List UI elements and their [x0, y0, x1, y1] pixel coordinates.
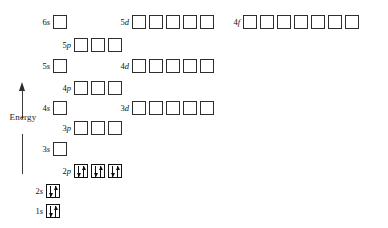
- energy-axis-line-lower: [22, 134, 23, 174]
- orbital-box-empty[interactable]: [74, 121, 88, 135]
- orbital-subshell-letter: s: [47, 103, 50, 113]
- orbital-row-4p: 4p: [52, 80, 122, 96]
- orbital-box-empty[interactable]: [200, 59, 214, 73]
- orbital-row-3s: 3s: [31, 141, 67, 157]
- orbital-subshell-letter: d: [125, 103, 129, 113]
- orbital-box-empty[interactable]: [166, 15, 180, 29]
- orbital-box-empty[interactable]: [132, 59, 146, 73]
- orbital-label-5d: 5d: [110, 18, 129, 27]
- orbital-box-group-4d: [132, 59, 214, 73]
- spin-down-arrow-icon: [49, 186, 53, 197]
- orbital-box-empty[interactable]: [243, 15, 257, 29]
- orbital-box-empty[interactable]: [166, 101, 180, 115]
- orbital-box-group-4p: [74, 81, 122, 95]
- orbital-box-empty[interactable]: [108, 38, 122, 52]
- orbital-box-filled[interactable]: [74, 164, 88, 178]
- orbital-box-empty[interactable]: [311, 15, 325, 29]
- orbital-label-4p: 4p: [52, 84, 71, 93]
- orbital-box-group-3s: [53, 142, 67, 156]
- spin-down-arrow-icon: [94, 166, 98, 177]
- orbital-box-empty[interactable]: [74, 81, 88, 95]
- orbital-box-empty[interactable]: [53, 59, 67, 73]
- orbital-box-empty[interactable]: [345, 15, 359, 29]
- orbital-subshell-letter: s: [47, 144, 50, 154]
- orbital-box-filled[interactable]: [108, 164, 122, 178]
- orbital-row-1s: 1s: [24, 203, 60, 219]
- orbital-box-empty[interactable]: [149, 15, 163, 29]
- orbital-row-4s: 4s: [31, 100, 67, 116]
- spin-down-arrow-icon: [111, 166, 115, 177]
- electron-pair: [92, 165, 104, 177]
- orbital-label-3s: 3s: [31, 145, 50, 154]
- orbital-label-3d: 3d: [110, 104, 129, 113]
- orbital-box-empty[interactable]: [74, 38, 88, 52]
- orbital-box-empty[interactable]: [277, 15, 291, 29]
- orbital-row-6s: 6s: [31, 14, 67, 30]
- orbital-subshell-letter: f: [238, 17, 240, 27]
- orbital-box-empty[interactable]: [132, 15, 146, 29]
- orbital-box-empty[interactable]: [260, 15, 274, 29]
- orbital-label-4f: 4f: [221, 18, 240, 27]
- orbital-row-4d: 4d: [110, 58, 214, 74]
- orbital-box-empty[interactable]: [108, 81, 122, 95]
- orbital-box-empty[interactable]: [91, 121, 105, 135]
- orbital-label-3p: 3p: [52, 124, 71, 133]
- electron-pair: [75, 165, 87, 177]
- spin-down-arrow-icon: [77, 166, 81, 177]
- orbital-box-group-5p: [74, 38, 122, 52]
- orbital-subshell-letter: p: [67, 83, 71, 93]
- spin-down-arrow-icon: [49, 206, 53, 217]
- orbital-row-2s: 2s: [24, 183, 60, 199]
- orbital-box-empty[interactable]: [91, 81, 105, 95]
- orbital-box-filled[interactable]: [46, 204, 60, 218]
- orbital-label-6s: 6s: [31, 18, 50, 27]
- electron-pair: [109, 165, 121, 177]
- spin-up-arrow-icon: [54, 186, 58, 197]
- orbital-subshell-letter: d: [125, 17, 129, 27]
- orbital-box-empty[interactable]: [183, 15, 197, 29]
- orbital-box-group-5d: [132, 15, 214, 29]
- orbital-box-filled[interactable]: [91, 164, 105, 178]
- spin-up-arrow-icon: [82, 166, 86, 177]
- orbital-subshell-letter: s: [40, 186, 43, 196]
- orbital-box-group-3p: [74, 121, 122, 135]
- orbital-box-group-4s: [53, 101, 67, 115]
- orbital-box-empty[interactable]: [132, 101, 146, 115]
- orbital-box-empty[interactable]: [149, 59, 163, 73]
- orbital-box-group-3d: [132, 101, 214, 115]
- orbital-box-filled[interactable]: [46, 184, 60, 198]
- orbital-label-1s: 1s: [24, 207, 43, 216]
- orbital-subshell-letter: p: [67, 123, 71, 133]
- orbital-subshell-letter: d: [125, 61, 129, 71]
- orbital-box-empty[interactable]: [108, 121, 122, 135]
- orbital-box-empty[interactable]: [183, 59, 197, 73]
- orbital-box-group-6s: [53, 15, 67, 29]
- orbital-box-group-5s: [53, 59, 67, 73]
- orbital-box-empty[interactable]: [294, 15, 308, 29]
- orbital-row-5d: 5d: [110, 14, 214, 30]
- orbital-box-group-2s: [46, 184, 60, 198]
- orbital-box-empty[interactable]: [328, 15, 342, 29]
- orbital-box-empty[interactable]: [149, 101, 163, 115]
- orbital-label-4d: 4d: [110, 62, 129, 71]
- energy-axis: [22, 82, 24, 174]
- spin-up-arrow-icon: [99, 166, 103, 177]
- orbital-subshell-letter: s: [47, 17, 50, 27]
- orbital-label-2s: 2s: [24, 187, 43, 196]
- orbital-box-empty[interactable]: [166, 59, 180, 73]
- orbital-subshell-letter: p: [67, 166, 71, 176]
- orbital-box-group-4f: [243, 15, 359, 29]
- orbital-box-empty[interactable]: [200, 15, 214, 29]
- orbital-box-empty[interactable]: [91, 38, 105, 52]
- electron-pair: [47, 185, 59, 197]
- orbital-box-empty[interactable]: [183, 101, 197, 115]
- orbital-box-empty[interactable]: [200, 101, 214, 115]
- orbital-row-5s: 5s: [31, 58, 67, 74]
- orbital-subshell-letter: p: [67, 40, 71, 50]
- orbital-box-empty[interactable]: [53, 15, 67, 29]
- orbital-box-empty[interactable]: [53, 101, 67, 115]
- orbital-box-empty[interactable]: [53, 142, 67, 156]
- orbital-row-2p: 2p: [52, 163, 122, 179]
- orbital-box-group-2p: [74, 164, 122, 178]
- orbital-row-3p: 3p: [52, 120, 122, 136]
